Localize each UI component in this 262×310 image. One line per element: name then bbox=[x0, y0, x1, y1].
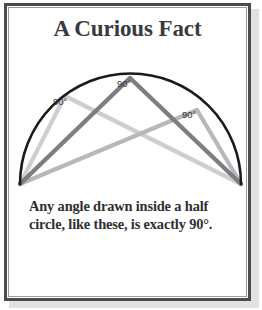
thales-half-circle-diagram: 90° 90° 90° bbox=[7, 53, 248, 190]
page-title: A Curious Fact bbox=[7, 16, 248, 42]
angle-label-right: 90° bbox=[182, 109, 197, 120]
page-root: A Curious Fact bbox=[0, 0, 262, 310]
figure-container: 90° 90° 90° bbox=[7, 53, 248, 190]
angle-label-left: 90° bbox=[53, 96, 68, 107]
caption-text: Any angle drawn inside a half circle, li… bbox=[29, 198, 236, 233]
framed-card: A Curious Fact bbox=[4, 3, 251, 301]
card-body: A Curious Fact bbox=[7, 6, 248, 298]
angle-label-center: 90° bbox=[117, 78, 132, 89]
